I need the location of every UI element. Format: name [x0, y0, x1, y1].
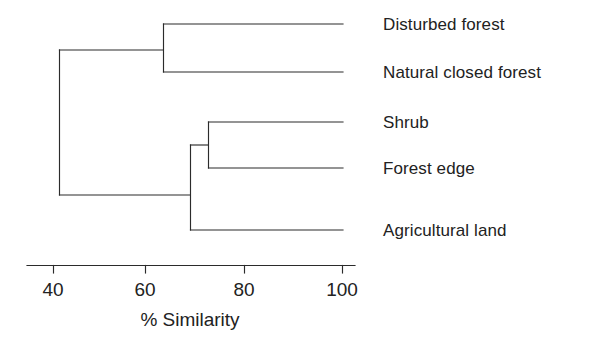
x-axis-tick-label-60: 60 — [134, 280, 155, 299]
leaf-label-agricultural-land: Agricultural land — [383, 222, 507, 239]
dendrogram-plot — [0, 0, 602, 339]
dendrogram-figure: Disturbed forest Natural closed forest S… — [0, 0, 602, 339]
x-axis-tick-label-40: 40 — [42, 280, 63, 299]
leaf-label-natural-closed-forest: Natural closed forest — [383, 64, 541, 81]
x-axis — [27, 266, 355, 274]
leaf-label-forest-edge: Forest edge — [383, 160, 475, 177]
leaf-label-disturbed-forest: Disturbed forest — [383, 16, 505, 33]
x-axis-title: % Similarity — [140, 310, 239, 329]
x-axis-tick-label-80: 80 — [233, 280, 254, 299]
x-axis-tick-label-100: 100 — [326, 280, 358, 299]
leaf-label-shrub: Shrub — [383, 114, 429, 131]
dendrogram-branches — [60, 24, 344, 230]
